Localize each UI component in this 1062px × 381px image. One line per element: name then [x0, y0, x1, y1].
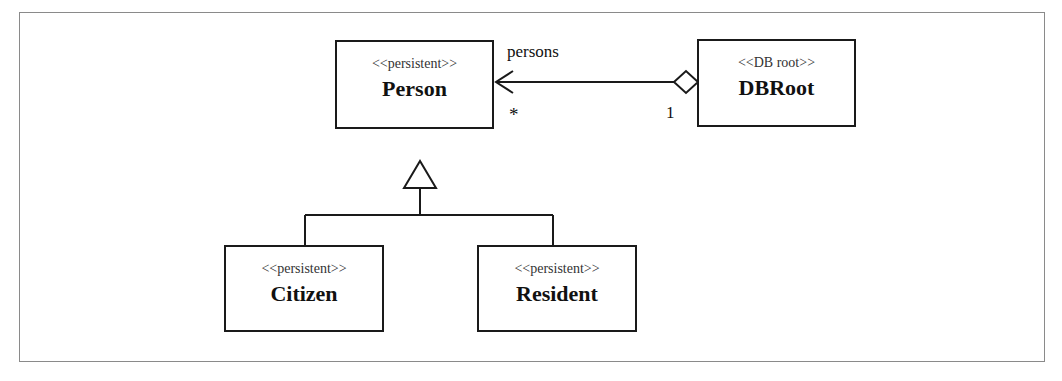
class-name: DBRoot — [699, 75, 854, 101]
multiplicity-source: 1 — [666, 103, 675, 123]
class-name: Person — [337, 76, 492, 102]
class-name: Resident — [479, 281, 635, 307]
association-persons — [496, 71, 698, 93]
stereotype: <<persistent>> — [226, 261, 382, 277]
class-dbroot[interactable]: <<DB root>> DBRoot — [697, 39, 856, 127]
generalization-tree — [305, 161, 553, 246]
stereotype: <<persistent>> — [337, 56, 492, 72]
multiplicity-target: * — [509, 104, 519, 126]
class-name: Citizen — [226, 281, 382, 307]
role-label: persons — [507, 42, 559, 62]
class-citizen[interactable]: <<persistent>> Citizen — [224, 245, 384, 332]
aggregation-diamond-icon — [674, 71, 698, 93]
class-person[interactable]: <<persistent>> Person — [335, 40, 494, 129]
class-resident[interactable]: <<persistent>> Resident — [477, 245, 637, 332]
inheritance-triangle-icon — [404, 161, 436, 188]
stereotype: <<DB root>> — [699, 55, 854, 71]
stereotype: <<persistent>> — [479, 261, 635, 277]
